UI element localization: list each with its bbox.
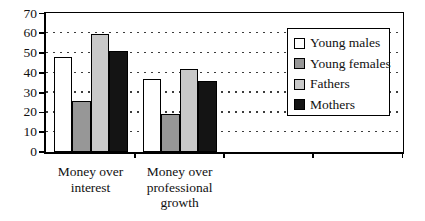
bar-mothers-cat1	[198, 81, 217, 152]
bar-young-females-cat1	[161, 114, 180, 152]
y-axis-tick-mark-30	[39, 92, 46, 94]
bar-young-males-cat0	[54, 57, 73, 152]
bar-young-males-cat1	[143, 79, 162, 152]
y-axis-tick-mark-20	[39, 112, 46, 114]
bar-fathers-cat0	[91, 34, 110, 152]
bar-young-females-cat0	[72, 101, 91, 152]
category-label-line: interest	[46, 180, 136, 196]
y-axis-tick-label-50: 50	[0, 46, 37, 60]
category-label-line: Money over	[46, 164, 136, 180]
y-axis-tick-label-60: 60	[0, 26, 37, 40]
y-axis-tick-mark-50	[39, 52, 46, 54]
bar-chart-figure: 010203040506070 Money overinterestMoney …	[0, 0, 425, 221]
legend-swatch-icon	[294, 99, 305, 110]
category-label-line: growth	[135, 195, 225, 211]
legend-entry-fathers: Fathers	[294, 74, 389, 95]
legend-entry-young-females: Young females	[294, 54, 389, 75]
legend-label: Fathers	[310, 77, 350, 91]
x-axis-tick-mark-3	[312, 152, 314, 158]
category-label-1: Money overprofessionalgrowth	[135, 164, 225, 211]
legend-swatch-icon	[294, 58, 305, 69]
y-axis-tick-label-30: 30	[0, 86, 37, 100]
legend: Young malesYoung femalesFathersMothers	[287, 28, 390, 116]
y-axis-tick-label-0: 0	[0, 145, 37, 159]
y-axis-tick-label-10: 10	[0, 125, 37, 139]
bar-fathers-cat1	[180, 69, 199, 152]
x-axis-tick-mark-4	[402, 152, 404, 158]
legend-entry-young-males: Young males	[294, 33, 389, 54]
legend-label: Young females	[310, 57, 391, 71]
legend-label: Young males	[310, 36, 380, 50]
legend-label: Mothers	[310, 98, 355, 112]
category-label-0: Money overinterest	[46, 164, 136, 195]
category-label-line: Money over	[135, 164, 225, 180]
x-axis-tick-mark-2	[223, 152, 225, 158]
bar-mothers-cat0	[109, 51, 128, 152]
y-axis-tick-mark-40	[39, 72, 46, 74]
y-axis-tick-mark-0	[39, 151, 46, 153]
legend-swatch-icon	[294, 79, 305, 90]
y-axis-tick-mark-10	[39, 131, 46, 133]
y-axis-tick-label-40: 40	[0, 66, 37, 80]
y-axis-tick-mark-70	[39, 13, 46, 15]
legend-entry-mothers: Mothers	[294, 95, 389, 116]
x-axis-tick-mark-1	[134, 152, 136, 158]
y-axis-tick-label-20: 20	[0, 105, 37, 119]
y-axis-tick-label-70: 70	[0, 7, 37, 21]
category-label-line: professional	[135, 180, 225, 196]
y-axis-tick-mark-60	[39, 32, 46, 34]
legend-swatch-icon	[294, 38, 305, 49]
